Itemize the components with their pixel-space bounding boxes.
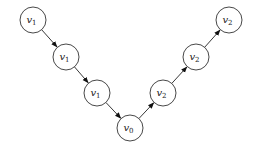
nodes-group: v1v1v1v0v2v2v2: [20, 7, 242, 141]
edge-arrow: [205, 30, 220, 47]
graph-node: v0: [117, 115, 143, 141]
graph-node: v2: [183, 44, 209, 70]
directed-graph: v1v1v1v0v2v2v2: [0, 0, 258, 146]
edge-arrow: [139, 103, 154, 119]
edges-group: [42, 30, 220, 119]
edge-arrow: [42, 30, 57, 47]
graph-node: v2: [150, 80, 176, 106]
graph-node: v2: [216, 7, 242, 33]
edge-arrow: [106, 102, 121, 118]
edge-arrow: [172, 67, 187, 83]
graph-node: v1: [53, 44, 79, 70]
edge-arrow: [74, 67, 88, 83]
graph-node: v1: [84, 80, 110, 106]
graph-node: v1: [20, 7, 46, 33]
